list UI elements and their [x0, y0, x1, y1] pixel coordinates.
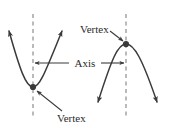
right-vertex-dot: [123, 41, 129, 47]
left-parabola-left-arm: [9, 31, 33, 87]
left-parabola-right-arm: [33, 31, 62, 87]
vertex-bottom-label: Vertex: [57, 112, 86, 124]
axis-label: Axis: [75, 57, 96, 69]
vertex-top-label: Vertex: [80, 23, 109, 35]
right-parabola-right-arm: [126, 44, 157, 102]
diagram-canvas: Axis Vertex Vertex: [0, 0, 169, 128]
parabola-diagram: Axis Vertex Vertex: [0, 0, 169, 128]
vertex-bottom-leader-arrow: [37, 91, 62, 111]
right-parabola-left-arm: [98, 44, 126, 102]
left-vertex-dot: [30, 84, 36, 90]
vertex-top-leader-arrow: [110, 31, 123, 41]
